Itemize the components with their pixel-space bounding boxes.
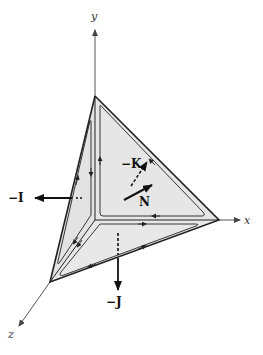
tetrahedron-diagram: y x z xyxy=(0,0,263,355)
vector-neg-k-label: −K xyxy=(121,157,142,171)
y-axis-label: y xyxy=(90,10,98,23)
vector-neg-j-label: −J xyxy=(106,295,122,309)
vector-neg-i-label: −I xyxy=(8,191,24,205)
z-axis-label: z xyxy=(7,328,14,341)
vector-n-label: N xyxy=(139,195,150,209)
z-axis xyxy=(19,282,50,326)
diagram-canvas: y x z xyxy=(0,0,263,355)
x-axis-label: x xyxy=(244,214,251,227)
